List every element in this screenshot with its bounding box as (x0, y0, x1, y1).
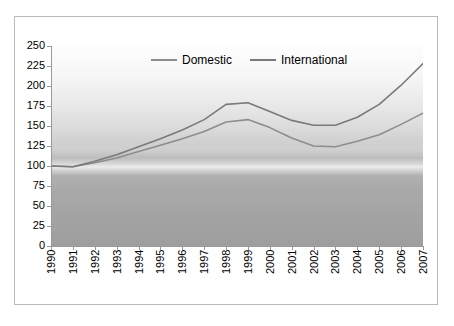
line-chart: Domestic International 02550751001251501… (0, 0, 454, 326)
x-axis-ticks (51, 17, 423, 304)
x-axis-tick-mark (401, 246, 402, 250)
x-axis-tick-mark (117, 246, 118, 250)
x-axis-tick-mark (95, 246, 96, 250)
x-axis-tick-mark (357, 246, 358, 250)
x-axis-tick-mark (292, 246, 293, 250)
x-axis-tick-mark (423, 246, 424, 250)
x-axis-tick-mark (204, 246, 205, 250)
x-axis-tick-mark (51, 246, 52, 250)
x-axis-tick-mark (270, 246, 271, 250)
x-axis-tick-mark (182, 246, 183, 250)
x-axis-tick-mark (139, 246, 140, 250)
chart-frame: Domestic International 02550751001251501… (14, 16, 438, 305)
x-axis-tick-mark (160, 246, 161, 250)
x-axis-tick-mark (73, 246, 74, 250)
x-axis-tick-mark (314, 246, 315, 250)
x-axis-tick-mark (248, 246, 249, 250)
x-axis-tick-mark (335, 246, 336, 250)
x-axis-tick-mark (226, 246, 227, 250)
x-axis-tick-mark (379, 246, 380, 250)
